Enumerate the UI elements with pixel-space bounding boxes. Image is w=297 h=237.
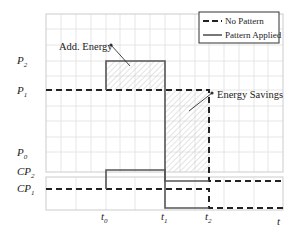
x-tick-t2: t2	[205, 210, 212, 225]
add-energy-label: Add. Energy	[59, 41, 113, 52]
y-tick-p0: P0	[16, 146, 28, 161]
legend-no-pattern: No Pattern	[225, 16, 264, 26]
svg-text:t2: t2	[205, 210, 212, 225]
energy-pattern-diagram: Add. Energy Energy Savings No Pattern Pa…	[0, 0, 297, 237]
x-tick-t1: t1	[161, 210, 168, 225]
energy-savings-label: Energy Savings	[217, 89, 283, 100]
x-tick-t0: t0	[101, 210, 108, 225]
y-tick-p1: P1	[16, 84, 27, 99]
svg-text:CP1: CP1	[17, 182, 35, 197]
svg-text:t0: t0	[101, 210, 108, 225]
svg-text:t1: t1	[161, 210, 168, 225]
y-tick-p2: P2	[16, 54, 28, 69]
svg-text:P2: P2	[16, 54, 28, 69]
svg-text:CP2: CP2	[17, 165, 35, 180]
svg-text:P1: P1	[16, 84, 27, 99]
legend-pattern-applied: Pattern Applied	[225, 30, 282, 40]
x-axis-label: t	[277, 215, 281, 227]
y-tick-cp2: CP2	[17, 165, 35, 180]
legend: No Pattern Pattern Applied	[199, 12, 282, 43]
svg-text:P0: P0	[16, 146, 28, 161]
add-energy-area	[106, 61, 165, 90]
energy-savings-area	[165, 90, 209, 172]
y-tick-cp1: CP1	[17, 182, 35, 197]
